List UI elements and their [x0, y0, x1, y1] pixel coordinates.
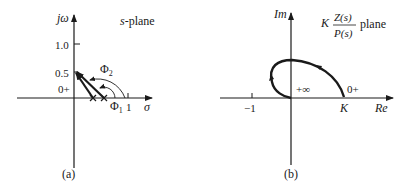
plane-label-k: K	[320, 16, 330, 30]
phi1-label: Φ1	[110, 99, 123, 115]
start-label-0plus: 0+	[347, 83, 359, 95]
tick-label-0plus: 0+	[58, 83, 70, 95]
diagram-canvas: jω s-plane 1.0 0.5 0+ 1 σ Φ2 Φ1 (a) Im K…	[0, 0, 403, 192]
plane-label-suffix: plane	[360, 17, 386, 31]
tick-label-1.0: 1.0	[55, 39, 69, 51]
tick-label-0.5: 0.5	[55, 67, 69, 79]
re-axis-label: Re	[374, 101, 388, 115]
caption-a: (a)	[62, 167, 75, 181]
panel-a: jω s-plane 1.0 0.5 0+ 1 σ Φ2 Φ1 (a)	[17, 11, 155, 181]
panel-b: Im K Z(s) P(s) plane −1 K Re 0+ +∞ (b)	[220, 7, 393, 181]
caption-b: (b)	[284, 167, 298, 181]
tick-label-x-1: 1	[126, 101, 132, 113]
tick-label-minus-1: −1	[244, 102, 256, 114]
plane-label-denominator: P(s)	[333, 27, 353, 40]
plane-label-numerator: Z(s)	[334, 11, 352, 24]
curve-direction-arrow-left	[269, 74, 274, 81]
plane-label: s-plane	[120, 14, 155, 28]
sigma-axis-label: σ	[144, 100, 151, 114]
k-label: K	[339, 101, 349, 115]
jw-axis-label: jω	[55, 11, 69, 25]
end-label-plus-infinity: +∞	[296, 83, 310, 95]
im-axis-label: Im	[273, 7, 287, 21]
phi2-label: Φ2	[100, 62, 113, 78]
